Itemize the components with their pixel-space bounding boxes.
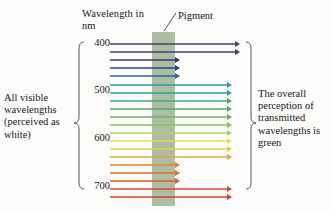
pigment-transmission-figure: Wavelength in nm Pigment All visible wav…	[0, 0, 331, 212]
axis-tick-label: 600	[84, 132, 110, 143]
ray-arrowhead	[235, 49, 240, 55]
ray-arrowhead	[227, 194, 232, 200]
ray-arrowhead	[227, 114, 232, 120]
axis-tick-label: 500	[84, 84, 110, 95]
pigment-bar	[152, 32, 175, 206]
pigment-rect	[152, 32, 175, 206]
ray-arrowhead	[227, 154, 232, 160]
pigment-leader-line	[164, 13, 176, 31]
ray-arrowhead	[227, 138, 232, 144]
diagram-canvas	[0, 0, 331, 212]
ray-arrowhead	[175, 170, 180, 176]
ray-arrowhead	[227, 146, 232, 152]
left-brace	[74, 42, 84, 189]
ray-arrowhead	[235, 41, 240, 47]
ray-arrowhead	[175, 178, 180, 184]
ray-arrowhead	[227, 98, 232, 104]
ray-arrowhead	[175, 73, 180, 79]
ray-arrowhead	[227, 130, 232, 136]
ray-arrowhead	[175, 57, 180, 63]
ray-arrowhead	[175, 162, 180, 168]
axis-tick-label: 400	[84, 37, 110, 48]
ray-arrowhead	[227, 82, 232, 88]
right-brace	[246, 42, 256, 189]
ray-arrowhead	[227, 90, 232, 96]
ray-arrowhead	[227, 186, 232, 192]
axis-tick-label: 700	[84, 180, 110, 191]
ray-arrowhead	[227, 122, 232, 128]
ray-arrowhead	[227, 106, 232, 112]
ray-arrowhead	[175, 65, 180, 71]
